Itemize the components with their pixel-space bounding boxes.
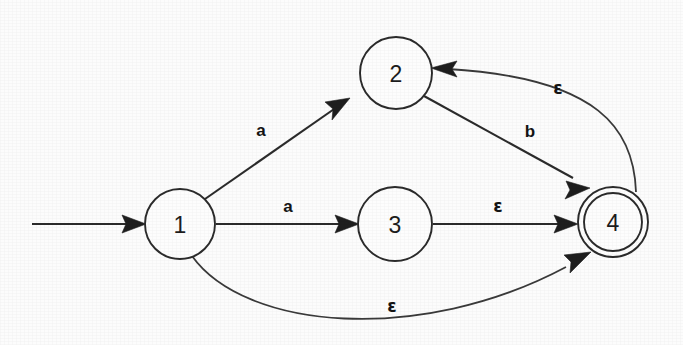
transition-label-b: b xyxy=(525,122,535,141)
state-3-label: 3 xyxy=(389,212,402,238)
state-1-label: 1 xyxy=(174,212,187,238)
state-2-label: 2 xyxy=(390,61,403,87)
transition-2-to-4-head xyxy=(565,181,590,199)
transition-2-to-4-shaft xyxy=(424,96,573,178)
transition-2-to-4: b xyxy=(424,96,590,199)
transition-1-to-4-head xyxy=(564,252,591,273)
transition-1-to-2-shaft xyxy=(205,107,337,199)
transition-label-epsilon-middle: ε xyxy=(493,196,502,216)
state-4-label: 4 xyxy=(607,210,620,236)
diagram-canvas: a a ε b ε ε xyxy=(0,0,683,345)
automaton-diagram: a a ε b ε ε xyxy=(0,0,683,345)
transition-4-to-2-shaft xyxy=(448,69,636,192)
transition-1-to-3: a xyxy=(216,197,359,234)
transition-label-epsilon-lower: ε xyxy=(387,296,396,316)
transition-1-to-2: a xyxy=(205,98,350,199)
transition-label-a-upper: a xyxy=(256,121,266,140)
transition-label-a-middle: a xyxy=(283,197,293,216)
transition-1-to-2-head xyxy=(325,98,350,120)
state-4-accepting[interactable]: 4 xyxy=(578,187,648,257)
transition-1-to-4-shaft xyxy=(192,256,566,319)
state-1[interactable]: 1 xyxy=(145,189,215,259)
transition-label-epsilon-upper: ε xyxy=(553,78,562,98)
transition-1-to-4: ε xyxy=(192,252,591,319)
state-3[interactable]: 3 xyxy=(358,187,432,261)
transition-3-to-4: ε xyxy=(433,196,578,233)
start-arrow xyxy=(32,215,146,233)
state-2[interactable]: 2 xyxy=(360,37,432,109)
